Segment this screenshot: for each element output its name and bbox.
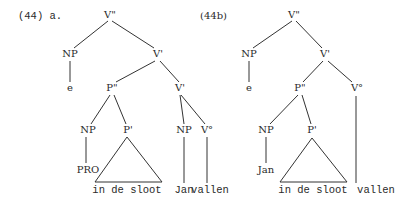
leaf-vallen-b: vallen <box>357 185 395 196</box>
leaf-in-de-sloot-b: in de sloot <box>278 185 347 196</box>
example-label-a: (44) a. <box>18 11 62 22</box>
node-v-double-bar: V" <box>104 10 116 20</box>
node-np-jan-b: NP <box>258 125 273 135</box>
node-p-double-bar: P" <box>106 83 117 93</box>
leaf-in-de-sloot: in de sloot <box>92 185 161 196</box>
node-p-bar-b: P' <box>307 125 316 135</box>
node-v-bar: V' <box>153 49 163 59</box>
tree-edges <box>0 0 413 207</box>
node-v-zero: V° <box>201 125 213 135</box>
node-p-bar: P' <box>123 125 132 135</box>
node-v-double-bar-b: V" <box>288 10 300 20</box>
node-v-bar-b: V' <box>320 49 330 59</box>
node-np-pro: NP <box>80 125 95 135</box>
node-v-bar-lower: V' <box>175 83 185 93</box>
node-empty-e: e <box>67 83 73 93</box>
node-v-zero-b: V° <box>351 83 363 93</box>
leaf-pro: PRO <box>77 165 99 175</box>
leaf-vallen: vallen <box>191 185 229 196</box>
node-np-jan: NP <box>176 125 191 135</box>
example-label-b: (44b) <box>200 11 227 21</box>
node-p-double-bar-b: P" <box>294 83 305 93</box>
syntax-tree-figure: (44) a. V" NP V' e P" V' NP P' NP V° PRO… <box>0 0 413 207</box>
node-np-spec: NP <box>62 49 77 59</box>
node-np-spec-b: NP <box>241 49 256 59</box>
node-empty-e-b: e <box>246 83 252 93</box>
leaf-jan-b: Jan <box>258 165 274 175</box>
